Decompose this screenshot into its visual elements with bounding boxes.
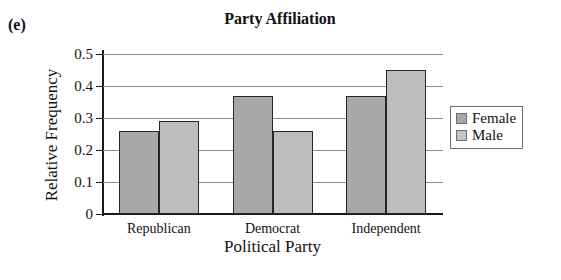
x-axis-title: Political Party xyxy=(102,237,443,257)
y-axis-tick-label: 0 xyxy=(86,206,94,223)
bar-independent-male xyxy=(386,70,426,214)
y-axis-tick xyxy=(96,54,103,55)
legend-label-female: Female xyxy=(472,111,516,126)
y-axis-title: Relative Frequency xyxy=(42,40,62,230)
legend-label-male: Male xyxy=(472,128,503,143)
y-axis-tick-label: 0.3 xyxy=(74,110,93,127)
legend-item-female: Female xyxy=(456,110,516,127)
legend-swatch-female-icon xyxy=(456,113,467,124)
y-axis-tick-label: 0.5 xyxy=(74,46,93,63)
bar-democrat-male xyxy=(273,131,313,214)
y-axis-tick xyxy=(96,182,103,183)
y-axis-tick-label: 0.4 xyxy=(74,78,93,95)
legend-swatch-male-icon xyxy=(456,130,467,141)
y-axis-tick-label: 0.1 xyxy=(74,174,93,191)
chart-title: Party Affiliation xyxy=(120,10,440,28)
x-axis-tick-label: Democrat xyxy=(245,221,300,237)
panel-letter-label: (e) xyxy=(8,16,26,34)
bar-republican-male xyxy=(159,121,199,214)
bar-republican-female xyxy=(119,131,159,214)
chart-legend: Female Male xyxy=(450,106,523,149)
gridline xyxy=(102,54,443,55)
y-axis-tick xyxy=(96,86,103,87)
y-axis-tick xyxy=(96,118,103,119)
bar-independent-female xyxy=(346,96,386,214)
y-axis-tick xyxy=(96,214,103,215)
x-axis-tick-label: Independent xyxy=(352,221,421,237)
y-axis-line xyxy=(102,50,104,216)
y-axis-tick xyxy=(96,150,103,151)
y-axis-tick-label: 0.2 xyxy=(74,142,93,159)
plot-area: 00.10.20.30.40.5 RepublicanDemocratIndep… xyxy=(102,54,443,214)
bar-democrat-female xyxy=(233,96,273,214)
figure-panel: (e) Party Affiliation Relative Frequency… xyxy=(0,0,561,280)
x-axis-tick-label: Republican xyxy=(127,221,191,237)
legend-item-male: Male xyxy=(456,127,516,144)
